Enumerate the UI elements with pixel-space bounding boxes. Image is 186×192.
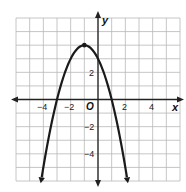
x-tick-neg4: −4 (37, 102, 47, 112)
vertex-point (82, 43, 87, 48)
x-axis-label: x (171, 101, 179, 113)
y-axis-label: y (101, 14, 109, 26)
origin-label: O (86, 101, 94, 112)
x-tick-neg2: −2 (64, 102, 74, 112)
y-tick-neg2: −2 (84, 122, 94, 132)
x-tick-4: 4 (149, 102, 154, 112)
y-tick-2: 2 (89, 68, 94, 78)
axes (11, 11, 184, 187)
parabola-graph: y x O −4 −2 2 4 2 −2 −4 (0, 0, 186, 192)
x-tick-2: 2 (122, 102, 127, 112)
y-tick-neg4: −4 (84, 149, 94, 159)
